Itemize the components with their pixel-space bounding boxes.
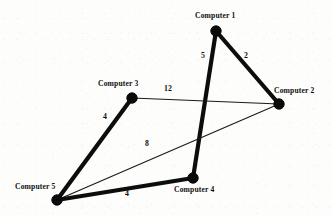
labels-layer: 5212484Computer 1Computer 2Computer 3Com… [0,0,332,217]
network-diagram: 5212484Computer 1Computer 2Computer 3Com… [0,0,332,217]
edge-weight-label: 4 [125,190,129,198]
node-label-computer-5: Computer 5 [15,183,55,191]
edge-weight-label: 8 [145,140,149,148]
edge-weight-label: 2 [244,52,248,60]
edge-weight-label: 12 [164,85,172,93]
node-label-computer-4: Computer 4 [174,186,214,194]
node-label-computer-3: Computer 3 [98,80,138,88]
node-label-computer-2: Computer 2 [274,87,314,95]
edge-weight-label: 4 [103,113,107,121]
edge-weight-label: 5 [201,52,205,60]
node-label-computer-1: Computer 1 [195,12,235,20]
